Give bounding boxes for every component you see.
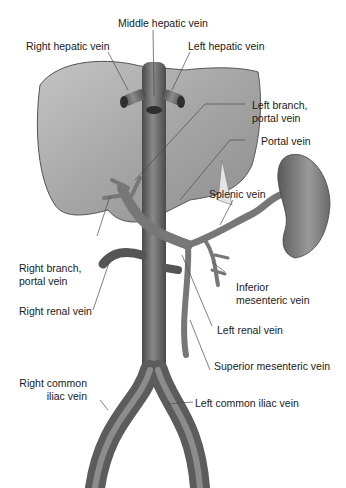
label-right-branch-portal-vein: Right branch, portal vein bbox=[19, 262, 81, 287]
label-left-branch-portal-vein: Left branch, portal vein bbox=[252, 99, 307, 124]
spleen bbox=[278, 154, 330, 258]
label-superior-mesenteric-vein: Superior mesenteric vein bbox=[214, 360, 330, 373]
label-middle-hepatic-vein: Middle hepatic vein bbox=[118, 17, 208, 30]
label-inferior-mesenteric-vein: Inferior mesenteric vein bbox=[236, 281, 310, 306]
label-right-hepatic-vein: Right hepatic vein bbox=[26, 40, 109, 53]
label-splenic-vein: Splenic vein bbox=[209, 188, 266, 201]
label-portal-vein: Portal vein bbox=[261, 135, 311, 148]
common-iliac-veins bbox=[95, 370, 200, 488]
label-left-hepatic-vein: Left hepatic vein bbox=[188, 40, 264, 53]
label-left-renal-vein: Left renal vein bbox=[217, 324, 283, 337]
label-left-common-iliac-vein: Left common iliac vein bbox=[195, 397, 299, 410]
portal-venous-diagram bbox=[0, 0, 346, 488]
label-right-renal-vein: Right renal vein bbox=[19, 305, 92, 318]
label-right-common-iliac-vein: Right common iliac vein bbox=[19, 377, 87, 402]
renal-veins bbox=[103, 252, 178, 270]
